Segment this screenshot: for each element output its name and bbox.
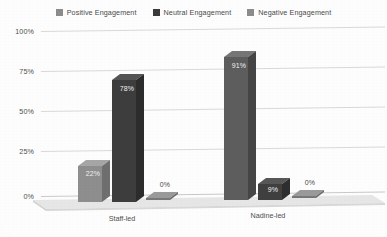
legend-label: Negative Engagement bbox=[258, 8, 331, 17]
bar-staff-led-positive[interactable] bbox=[78, 158, 116, 206]
bar-chart-plot-area: 100% 75% 50% 25% 0% 22% 78% 0% Staff-led bbox=[0, 0, 387, 237]
bar-nadine-led-negative[interactable] bbox=[292, 188, 330, 202]
x-axis-label-staff-led: Staff-led bbox=[92, 214, 152, 223]
bar-staff-led-neutral[interactable] bbox=[112, 72, 150, 206]
y-axis-label-100: 100% bbox=[0, 27, 34, 36]
bar-label-nadine-led-negative: 0% bbox=[297, 179, 323, 186]
gridline-50 bbox=[41, 106, 385, 112]
x-axis-label-nadine-led: Nadine-led bbox=[238, 211, 298, 220]
bar-label-nadine-led-neutral: 9% bbox=[260, 186, 286, 193]
y-axis-label-25: 25% bbox=[0, 147, 34, 156]
gridline-100 bbox=[41, 26, 385, 32]
y-axis-label-50: 50% bbox=[0, 107, 34, 116]
gridline-75 bbox=[41, 66, 385, 72]
bar-staff-led-negative[interactable] bbox=[146, 190, 184, 204]
gridline-25 bbox=[41, 146, 385, 152]
legend-swatch-icon bbox=[153, 9, 160, 16]
bar-label-staff-led-negative: 0% bbox=[152, 181, 178, 188]
legend-label: Positive Engagement bbox=[67, 8, 137, 17]
bar-label-staff-led-neutral: 78% bbox=[114, 85, 140, 92]
bar-label-staff-led-positive: 22% bbox=[80, 170, 106, 177]
bar-label-nadine-led-positive: 91% bbox=[226, 62, 252, 69]
legend-item-positive-engagement: Positive Engagement bbox=[56, 8, 137, 17]
legend-item-negative-engagement: Negative Engagement bbox=[247, 8, 331, 17]
legend-label: Neutral Engagement bbox=[164, 8, 232, 17]
bar-nadine-led-positive[interactable] bbox=[224, 49, 262, 204]
y-axis-label-75: 75% bbox=[0, 67, 34, 76]
chart-legend: Positive Engagement Neutral Engagement N… bbox=[0, 8, 387, 17]
legend-swatch-icon bbox=[247, 9, 254, 16]
legend-swatch-icon bbox=[56, 9, 63, 16]
legend-item-neutral-engagement: Neutral Engagement bbox=[153, 8, 232, 17]
